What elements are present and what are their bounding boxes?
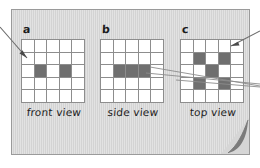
grid-cell-empty — [181, 65, 193, 77]
grid-cell-empty — [60, 78, 72, 90]
grid-cell-filled — [126, 65, 138, 77]
caption-front-view: front view — [18, 106, 89, 118]
grid-cell-empty — [126, 40, 138, 52]
grid-cell-empty — [181, 90, 193, 102]
grid-cell-empty — [151, 65, 163, 77]
grid-cell-empty — [22, 53, 34, 65]
grid-cell-empty — [47, 65, 59, 77]
grid-cell-empty — [126, 90, 138, 102]
grid-cell-empty — [231, 65, 243, 77]
panel-letter-a: a — [23, 24, 31, 35]
grid-cell-filled — [35, 65, 47, 77]
grid-cell-empty — [22, 65, 34, 77]
panel-letter-c: c — [182, 24, 189, 35]
grid-cell-empty — [22, 40, 34, 52]
grid-cell-filled — [114, 65, 126, 77]
caption-top-view: top view — [177, 106, 248, 118]
grid-cell-empty — [181, 40, 193, 52]
grid-cell-empty — [181, 78, 193, 90]
grid-cell-empty — [126, 78, 138, 90]
page-curl-corner — [209, 118, 249, 154]
diagram-card: a front view b side view c top view — [11, 9, 250, 155]
grid-cell-empty — [35, 40, 47, 52]
grid-cell-empty — [101, 90, 113, 102]
caption-side-view: side view — [97, 106, 168, 118]
grid-cell-empty — [22, 90, 34, 102]
grid-cell-empty — [114, 90, 126, 102]
grid-cell-empty — [72, 65, 84, 77]
grid-cell-empty — [35, 53, 47, 65]
grid-cell-empty — [72, 90, 84, 102]
grid-cell-empty — [139, 53, 151, 65]
grid-cell-filled — [219, 53, 231, 65]
grid-cell-empty — [72, 78, 84, 90]
grid-cell-empty — [47, 53, 59, 65]
grid-cell-empty — [114, 78, 126, 90]
grid-cell-empty — [60, 90, 72, 102]
grid-cell-empty — [181, 53, 193, 65]
grid-cell-empty — [101, 53, 113, 65]
grid-cell-empty — [231, 78, 243, 90]
grid-cell-filled — [194, 78, 206, 90]
grid-cell-filled — [194, 53, 206, 65]
grid-cell-empty — [22, 78, 34, 90]
grid-cell-empty — [151, 78, 163, 90]
grid-cell-empty — [206, 53, 218, 65]
grid-cell-empty — [47, 78, 59, 90]
grid-cell-empty — [72, 53, 84, 65]
grid-cell-empty — [151, 40, 163, 52]
grid-cell-empty — [206, 90, 218, 102]
grid-cell-empty — [139, 40, 151, 52]
grid-cell-empty — [101, 65, 113, 77]
figure-canvas: a front view b side view c top view — [0, 0, 260, 168]
grid-cell-filled — [219, 78, 231, 90]
grid-cell-empty — [194, 40, 206, 52]
grid-cell-empty — [47, 90, 59, 102]
grid-cell-empty — [219, 40, 231, 52]
grid-cell-empty — [35, 78, 47, 90]
grid-cell-empty — [206, 78, 218, 90]
grid-cell-empty — [151, 53, 163, 65]
grid-cell-empty — [231, 40, 243, 52]
grid-cell-empty — [194, 65, 206, 77]
grid-cell-empty — [47, 40, 59, 52]
grid-cell-empty — [60, 53, 72, 65]
grid-cell-empty — [139, 90, 151, 102]
grid-top-view — [180, 39, 244, 103]
grid-cell-filled — [60, 65, 72, 77]
grid-cell-empty — [72, 40, 84, 52]
panel-letter-b: b — [102, 24, 110, 35]
grid-cell-empty — [219, 90, 231, 102]
grid-cell-filled — [206, 65, 218, 77]
grid-cell-empty — [114, 40, 126, 52]
grid-cell-empty — [231, 53, 243, 65]
grid-cell-empty — [114, 53, 126, 65]
grid-cell-empty — [126, 53, 138, 65]
grid-cell-empty — [101, 40, 113, 52]
grid-cell-empty — [219, 65, 231, 77]
grid-cell-empty — [151, 90, 163, 102]
grid-cell-empty — [139, 78, 151, 90]
grid-cell-empty — [194, 90, 206, 102]
grid-cell-filled — [139, 65, 151, 77]
grid-cell-empty — [60, 40, 72, 52]
grid-cell-empty — [35, 90, 47, 102]
grid-cell-empty — [206, 40, 218, 52]
grid-front-view — [21, 39, 85, 103]
grid-side-view — [100, 39, 164, 103]
grid-cell-empty — [101, 78, 113, 90]
grid-cell-empty — [231, 90, 243, 102]
